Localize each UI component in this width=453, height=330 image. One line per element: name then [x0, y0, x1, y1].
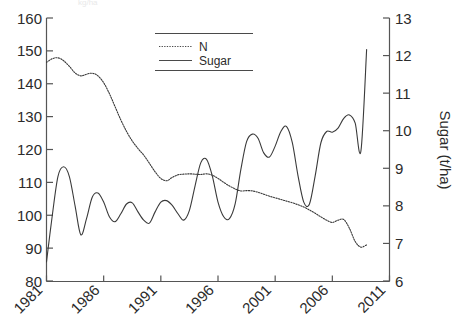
right-tick-label-12: 12 [395, 47, 412, 64]
bottom-axis: 1981198619911996200120062011 [10, 276, 389, 317]
series-group [47, 50, 367, 262]
left-tick-label-90: 90 [25, 240, 42, 257]
right-axis-tick-labels: 678910111213 [395, 10, 412, 290]
legend-label-sugar: Sugar [199, 54, 231, 68]
right-axis-title: Sugar (t/ha) [437, 110, 453, 189]
legend-label-n: N [199, 40, 208, 54]
left-tick-label-100: 100 [17, 207, 42, 224]
line-chart: kg/ha 8090100110120130140150160 67891011… [0, 0, 453, 330]
left-tick-label-130: 130 [17, 108, 42, 125]
right-tick-label-13: 13 [395, 10, 412, 27]
left-tick-label-140: 140 [17, 75, 42, 92]
right-tick-label-8: 8 [395, 197, 403, 214]
legend-entry-n: N [159, 40, 208, 54]
left-tick-label-120: 120 [17, 141, 42, 158]
left-tick-label-110: 110 [18, 174, 42, 191]
clipped-top-caption: kg/ha [78, 0, 98, 7]
bottom-tick-label-1996: 1996 [182, 281, 218, 317]
bottom-axis-tick-labels: 1981198619911996200120062011 [10, 281, 389, 317]
right-axis: 678910111213 Sugar (t/ha) [383, 10, 453, 290]
left-tick-label-160: 160 [17, 10, 42, 27]
bottom-tick-label-2006: 2006 [296, 281, 332, 317]
bottom-tick-label-1991: 1991 [124, 281, 160, 317]
left-axis: 8090100110120130140150160 [17, 10, 53, 290]
bottom-tick-label-2001: 2001 [239, 281, 275, 317]
series-line-sugar [47, 50, 367, 262]
right-axis-ticks [383, 18, 390, 281]
bottom-axis-ticks [47, 276, 390, 282]
right-tick-label-9: 9 [395, 160, 403, 177]
left-tick-label-150: 150 [17, 42, 42, 59]
legend: N Sugar [155, 34, 253, 71]
chart-figure: kg/ha 8090100110120130140150160 67891011… [0, 0, 453, 330]
bottom-tick-label-2011: 2011 [354, 281, 389, 316]
right-tick-label-7: 7 [395, 235, 403, 252]
legend-entry-sugar: Sugar [159, 54, 231, 68]
bottom-tick-label-1986: 1986 [67, 281, 103, 317]
right-tick-label-6: 6 [395, 273, 403, 290]
left-axis-ticks [47, 18, 54, 281]
right-tick-label-11: 11 [395, 85, 411, 102]
left-axis-tick-labels: 8090100110120130140150160 [17, 10, 42, 290]
right-tick-label-10: 10 [395, 122, 412, 139]
